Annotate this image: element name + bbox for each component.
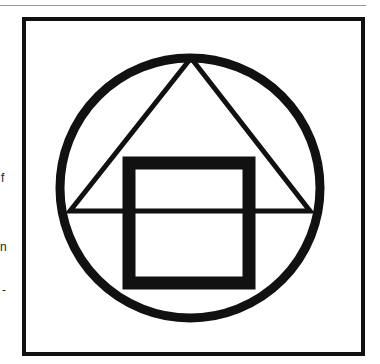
symbol-figure xyxy=(0,0,380,364)
figure-frame xyxy=(24,19,363,354)
